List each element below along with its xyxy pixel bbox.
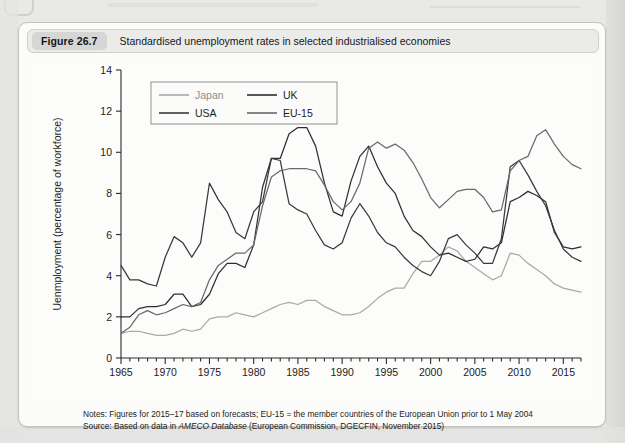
y-tick-label: 0 xyxy=(106,352,112,364)
notes-line-2: Source: Based on data in AMECO Database … xyxy=(83,421,603,433)
legend-label-usa: USA xyxy=(195,107,217,119)
y-tick-label: 6 xyxy=(106,229,112,241)
page-edge-right xyxy=(606,0,625,443)
source-label: Source: xyxy=(83,421,112,431)
x-tick-label: 2005 xyxy=(463,366,487,378)
figure-caption-bar: Figure 26.7 Standardised unemployment ra… xyxy=(27,29,599,53)
source-text-a: Based on data in xyxy=(112,421,179,431)
y-tick-label: 8 xyxy=(106,187,112,199)
series-line-usa xyxy=(121,158,581,286)
x-tick-label: 1985 xyxy=(286,366,310,378)
x-tick-label: 1975 xyxy=(198,366,222,378)
x-tick-label: 2000 xyxy=(419,366,443,378)
source-text-b: (European Commission, DGECFIN, November … xyxy=(247,421,444,431)
y-tick-label: 4 xyxy=(106,270,112,282)
artifact-rule xyxy=(430,6,580,8)
legend-label-eu-15: EU-15 xyxy=(283,107,313,119)
y-axis-title: Uenmployment (percentage of workforce) xyxy=(51,117,63,310)
chart-plot-panel: 0246810121419651970197519801985199019952… xyxy=(33,60,593,400)
artifact-text-bleed xyxy=(108,3,318,7)
x-tick-label: 1990 xyxy=(330,366,354,378)
legend-label-japan: Japan xyxy=(195,89,224,101)
figure-card: Figure 26.7 Standardised unemployment ra… xyxy=(18,22,606,427)
series-line-uk xyxy=(121,128,581,317)
x-tick-label: 1965 xyxy=(109,366,133,378)
legend-label-uk: UK xyxy=(283,89,298,101)
x-tick-label: 2015 xyxy=(552,366,576,378)
y-tick-label: 2 xyxy=(106,311,112,323)
page-scan-artifact xyxy=(0,0,625,18)
y-tick-label: 10 xyxy=(100,146,112,158)
notes-line-1-text: Figures for 2015–17 based on forecasts; … xyxy=(107,409,533,419)
x-tick-label: 1980 xyxy=(242,366,266,378)
source-database-name: AMECO Database xyxy=(178,421,246,431)
x-tick-label: 1995 xyxy=(375,366,399,378)
figure-notes: Notes: Figures for 2015–17 based on fore… xyxy=(83,409,603,432)
line-chart: 0246810121419651970197519801985199019952… xyxy=(33,60,593,400)
page-edge-left xyxy=(0,0,18,443)
figure-caption-text: Standardised unemployment rates in selec… xyxy=(120,35,451,47)
series-line-japan xyxy=(121,247,581,335)
series-line-eu-15 xyxy=(121,130,581,334)
notes-line-1: Notes: Figures for 2015–17 based on fore… xyxy=(83,409,603,421)
x-tick-label: 1970 xyxy=(154,366,178,378)
notes-label: Notes: xyxy=(83,409,107,419)
y-tick-label: 12 xyxy=(100,105,112,117)
x-tick-label: 2010 xyxy=(507,366,531,378)
figure-number-badge: Figure 26.7 xyxy=(32,32,107,50)
y-tick-label: 14 xyxy=(100,64,112,76)
